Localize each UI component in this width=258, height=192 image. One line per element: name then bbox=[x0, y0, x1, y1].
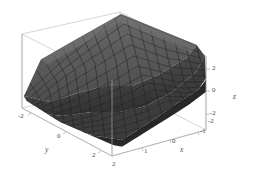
surface-plot-figure: 2 0 -2 z -2 -1 0 1 x -2 0 2 y 2 bbox=[0, 0, 258, 192]
z-tick-label-0: 0 bbox=[212, 87, 216, 94]
x-tick-label-0: 0 bbox=[172, 138, 176, 145]
z-tick-label-minus-2: -2 bbox=[210, 110, 216, 117]
x-tick-1 bbox=[142, 148, 143, 151]
y-tick-label-2: 2 bbox=[92, 152, 96, 159]
surface-mesh bbox=[24, 14, 206, 147]
x-tick-m1 bbox=[198, 132, 199, 135]
y-tick-0 bbox=[63, 132, 66, 134]
x-axis-title: x bbox=[180, 146, 183, 154]
surface-plot-canvas bbox=[0, 0, 258, 192]
z-axis-title: z bbox=[233, 93, 236, 101]
front-corner-tick-label-2: 2 bbox=[112, 161, 116, 168]
z-tick-label-2: 2 bbox=[212, 65, 216, 72]
x-tick-label-1: 1 bbox=[144, 148, 148, 155]
corner-tick-label-minus-2: -2 bbox=[208, 118, 214, 125]
x-tick-label-minus-1: -1 bbox=[200, 128, 206, 135]
y-axis-title: y bbox=[45, 146, 48, 154]
y-tick-m2 bbox=[28, 113, 31, 115]
y-tick-label-0: 0 bbox=[57, 133, 61, 140]
x-tick-0 bbox=[170, 140, 171, 143]
y-tick-label-minus-2: -2 bbox=[18, 113, 24, 120]
y-tick-2 bbox=[98, 151, 101, 153]
